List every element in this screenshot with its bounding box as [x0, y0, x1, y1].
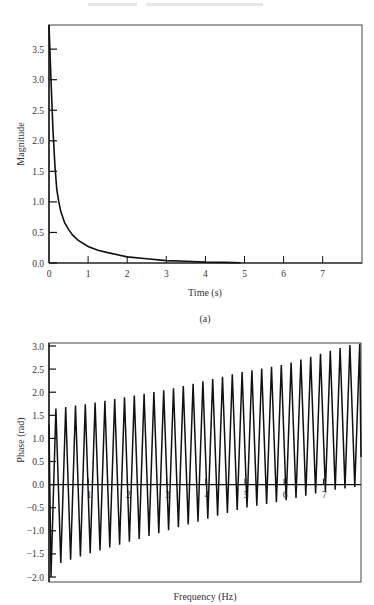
x-tick-label: 7 — [322, 490, 327, 500]
x-tick-label: 0 — [47, 269, 52, 279]
panel-caption: (a) — [199, 313, 210, 325]
x-tick-label: 1 — [86, 269, 91, 279]
y-tick-label: 1.5 — [32, 411, 44, 421]
x-tick-label: 6 — [281, 269, 286, 279]
plot-frame — [49, 25, 362, 263]
x-ticks: 01234567 — [47, 256, 326, 279]
y-tick-label: 0.5 — [32, 228, 44, 238]
y-tick-label: 2.0 — [32, 388, 44, 398]
y-tick-label: −1.0 — [27, 526, 44, 536]
y-tick-label: 2.5 — [32, 365, 44, 375]
x-tick-label: 7 — [320, 269, 325, 279]
y-tick-label: 0.0 — [32, 480, 44, 490]
x-tick-label: 2 — [125, 269, 130, 279]
y-axis-title: Phase (rad) — [15, 417, 27, 462]
phase-chart: −2.0−1.5−1.0−0.50.00.51.01.52.02.53.0 12… — [15, 342, 361, 604]
y-tick-label: 3.0 — [32, 342, 44, 352]
magnitude-chart: 0.00.51.01.52.02.53.03.5 01234567 Magnit… — [15, 25, 362, 325]
figure: 0.00.51.01.52.02.53.03.5 01234567 Magnit… — [0, 0, 374, 605]
y-tick-label: 2.0 — [32, 136, 44, 146]
y-tick-label: 2.5 — [32, 106, 44, 116]
x-tick-label: 3 — [164, 269, 169, 279]
y-tick-label: 3.5 — [32, 45, 44, 55]
y-tick-label: 0.5 — [32, 457, 44, 467]
y-ticks: 0.00.51.01.52.02.53.03.5 — [32, 45, 57, 269]
y-tick-label: 0.0 — [32, 259, 44, 269]
y-tick-label: −0.5 — [27, 503, 44, 513]
phase-curve — [49, 344, 361, 577]
y-tick-label: −1.5 — [27, 549, 44, 559]
magnitude-curve — [49, 25, 241, 263]
x-axis-title: Frequency (Hz) — [173, 591, 236, 603]
x-tick-label: 4 — [203, 269, 208, 279]
y-tick-label: 1.0 — [32, 434, 44, 444]
y-tick-label: 1.5 — [32, 167, 44, 177]
y-tick-label: 1.0 — [32, 197, 44, 207]
y-axis-title: Magnitude — [15, 122, 26, 166]
y-tick-label: 3.0 — [32, 75, 44, 85]
x-tick-label: 5 — [242, 269, 247, 279]
y-tick-label: −2.0 — [27, 573, 44, 583]
x-axis-title: Time (s) — [188, 287, 222, 299]
